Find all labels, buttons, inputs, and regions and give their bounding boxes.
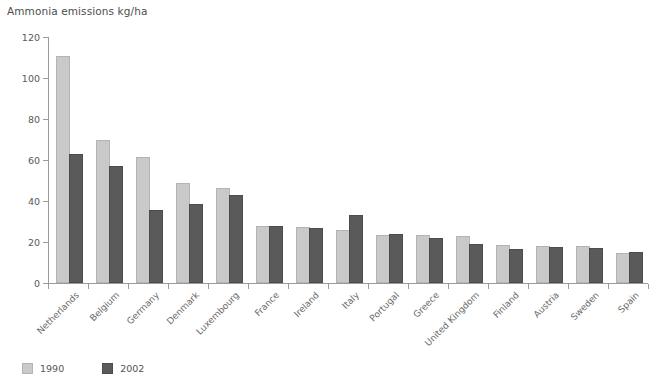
bar-2002 bbox=[589, 248, 603, 283]
bar-group bbox=[96, 37, 121, 283]
bar-group bbox=[136, 37, 161, 283]
y-axis-line bbox=[48, 37, 49, 284]
bar-2002 bbox=[149, 210, 163, 283]
bar-2002 bbox=[629, 252, 643, 283]
y-axis-tick bbox=[43, 242, 48, 243]
bar-group bbox=[616, 37, 641, 283]
ammonia-emissions-bar-chart: Ammonia emissions kg/ha 020406080100120 … bbox=[0, 0, 649, 390]
x-axis-line bbox=[48, 283, 648, 284]
y-axis-tick-label: 40 bbox=[28, 196, 40, 207]
bar-group bbox=[336, 37, 361, 283]
bar-group bbox=[176, 37, 201, 283]
y-axis-tick-label: 80 bbox=[28, 114, 40, 125]
y-axis-tick bbox=[43, 119, 48, 120]
bar-group bbox=[576, 37, 601, 283]
bar-2002 bbox=[349, 215, 363, 283]
bar-1990 bbox=[56, 56, 70, 284]
y-axis-tick-label: 20 bbox=[28, 237, 40, 248]
y-axis-tick bbox=[43, 37, 48, 38]
bar-1990 bbox=[136, 157, 150, 283]
y-axis-tick-label: 60 bbox=[28, 155, 40, 166]
y-axis-tick-label: 120 bbox=[22, 32, 40, 43]
plot-area: 020406080100120 bbox=[48, 37, 648, 283]
y-axis-tick-label: 100 bbox=[22, 73, 40, 84]
legend-swatch-icon bbox=[22, 363, 33, 374]
legend-item-2002[interactable]: 2002 bbox=[102, 363, 144, 374]
bar-group bbox=[376, 37, 401, 283]
bar-group bbox=[216, 37, 241, 283]
legend-label: 2002 bbox=[120, 363, 144, 374]
bar-group bbox=[56, 37, 81, 283]
bar-2002 bbox=[469, 244, 483, 283]
legend-item-1990[interactable]: 1990 bbox=[22, 363, 64, 374]
bar-2002 bbox=[309, 228, 323, 283]
y-axis-tick bbox=[43, 201, 48, 202]
legend-label: 1990 bbox=[40, 363, 64, 374]
bar-2002 bbox=[429, 238, 443, 283]
legend-swatch-icon bbox=[102, 363, 113, 374]
bar-2002 bbox=[69, 154, 83, 283]
bar-2002 bbox=[389, 234, 403, 283]
chart-title: Ammonia emissions kg/ha bbox=[7, 5, 147, 17]
bar-group bbox=[256, 37, 281, 283]
bar-group bbox=[456, 37, 481, 283]
y-axis-tick bbox=[43, 160, 48, 161]
chart-legend: 19902002 bbox=[22, 363, 144, 374]
bar-2002 bbox=[229, 195, 243, 283]
bar-2002 bbox=[549, 247, 563, 283]
bar-1990 bbox=[376, 235, 390, 283]
y-axis-tick-label: 0 bbox=[34, 278, 40, 289]
bar-group bbox=[536, 37, 561, 283]
bar-group bbox=[296, 37, 321, 283]
bar-2002 bbox=[189, 204, 203, 283]
y-axis-tick bbox=[43, 78, 48, 79]
x-axis-tick bbox=[48, 284, 49, 289]
bar-group bbox=[416, 37, 441, 283]
